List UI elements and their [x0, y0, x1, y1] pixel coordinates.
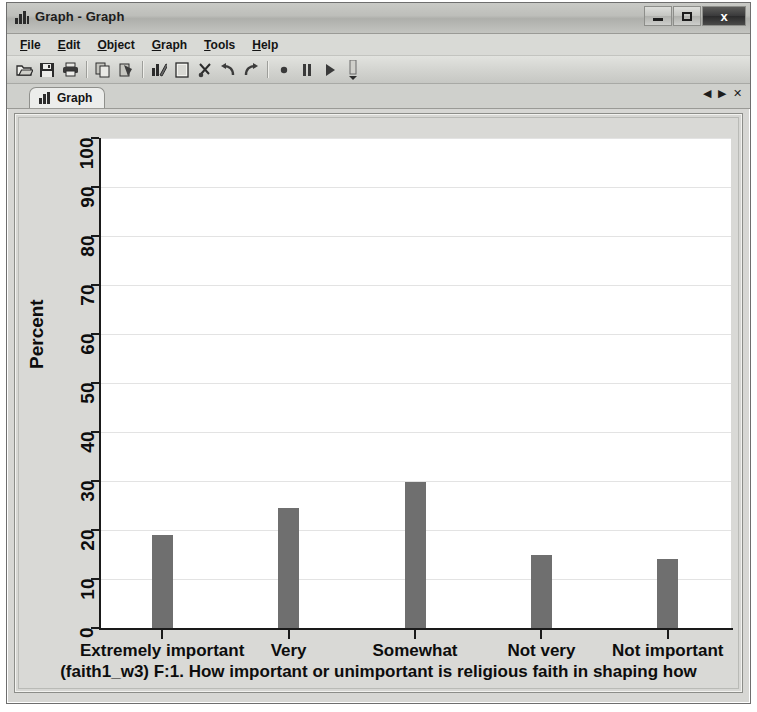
print-icon[interactable]	[59, 59, 81, 81]
close-button[interactable]: x	[702, 6, 746, 26]
x-axis-label: Not very	[507, 642, 575, 659]
y-axis-line	[99, 138, 101, 629]
menu-item-help[interactable]: Help	[252, 38, 278, 52]
y-axis-label: 40	[78, 432, 97, 453]
graph-canvas: Percent 0102030405060708090100 Extremely…	[18, 117, 739, 689]
y-axis-title: Percent	[27, 299, 46, 369]
tab-strip: Graph ◀ ▶ ✕	[7, 84, 750, 109]
record-icon[interactable]	[273, 59, 295, 81]
graph-editor-icon[interactable]	[148, 59, 170, 81]
gridline	[99, 334, 731, 335]
toolbar-separator	[86, 61, 88, 78]
gridline	[99, 285, 731, 286]
bar	[531, 555, 552, 629]
x-axis-tick	[288, 630, 290, 639]
more-icon[interactable]	[342, 59, 364, 81]
toolbar	[7, 56, 750, 84]
window-title: Graph - Graph	[35, 9, 124, 24]
gridline	[99, 187, 731, 188]
window-controls: x	[643, 6, 746, 26]
y-axis-label: 80	[78, 236, 97, 257]
tab-graph[interactable]: Graph	[29, 87, 105, 108]
graph-client-area: Percent 0102030405060708090100 Extremely…	[14, 113, 743, 693]
menu-item-object[interactable]: Object	[97, 38, 134, 52]
redo-icon[interactable]	[240, 59, 262, 81]
tab-next-icon[interactable]: ▶	[718, 88, 726, 99]
copy-icon[interactable]	[92, 59, 114, 81]
x-axis-tick	[414, 630, 416, 639]
x-axis-label: Very	[271, 642, 307, 659]
bar	[657, 559, 678, 628]
new-document-icon[interactable]	[171, 59, 193, 81]
open-icon[interactable]	[13, 59, 35, 81]
save-icon[interactable]	[36, 59, 58, 81]
graph-window: Graph - Graph x File Edit Object Graph T…	[6, 2, 751, 704]
y-axis-label: 50	[78, 383, 97, 404]
bar-chart-icon	[15, 11, 29, 24]
tab-close-icon[interactable]: ✕	[733, 88, 742, 99]
title-bar: Graph - Graph x	[7, 3, 750, 34]
x-axis-label: Not important	[612, 642, 723, 659]
undo-icon[interactable]	[217, 59, 239, 81]
y-axis-label: 100	[78, 138, 97, 170]
x-axis-tick	[667, 630, 669, 639]
gridline	[99, 383, 731, 384]
tab-nav: ◀ ▶ ✕	[703, 88, 742, 99]
menu-item-tools[interactable]: Tools	[204, 38, 235, 52]
y-axis-label: 0	[78, 628, 97, 639]
bar-chart: Percent 0102030405060708090100 Extremely…	[19, 118, 738, 688]
x-axis-caption: (faith1_w3) F:1. How important or unimpo…	[19, 663, 738, 680]
bar	[405, 482, 426, 628]
cut-icon[interactable]	[194, 59, 216, 81]
y-axis-label: 20	[78, 530, 97, 551]
bar-chart-icon	[39, 92, 52, 104]
x-axis-line	[99, 628, 733, 630]
gridline	[99, 236, 731, 237]
minimize-button[interactable]	[644, 6, 672, 26]
menu-item-file[interactable]: File	[20, 38, 41, 52]
y-axis-label: 60	[78, 334, 97, 355]
maximize-button[interactable]	[673, 6, 701, 26]
gridline	[99, 432, 731, 433]
tab-graph-label: Graph	[57, 91, 92, 105]
tab-prev-icon[interactable]: ◀	[703, 88, 711, 99]
x-axis-tick	[540, 630, 542, 639]
menu-item-graph[interactable]: Graph	[152, 38, 187, 52]
plot-area	[99, 138, 731, 628]
x-axis-label: Somewhat	[372, 642, 457, 659]
bar	[152, 535, 173, 628]
menu-item-edit[interactable]: Edit	[58, 38, 81, 52]
toolbar-separator	[267, 61, 269, 78]
x-axis-label: Extremely important	[80, 642, 244, 659]
pause-icon[interactable]	[296, 59, 318, 81]
gridline	[99, 138, 731, 139]
play-icon[interactable]	[319, 59, 341, 81]
toolbar-separator	[142, 61, 144, 78]
y-axis-label: 30	[78, 481, 97, 502]
y-axis-label: 90	[78, 187, 97, 208]
y-axis-label: 70	[78, 285, 97, 306]
bar	[278, 508, 299, 628]
paste-icon[interactable]	[115, 59, 137, 81]
y-axis-label: 10	[78, 579, 97, 600]
x-axis-tick	[161, 630, 163, 639]
menu-bar: File Edit Object Graph Tools Help	[7, 34, 750, 56]
